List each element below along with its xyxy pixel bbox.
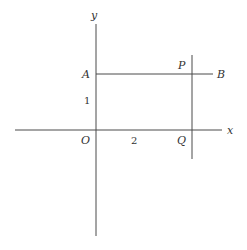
point-p-label: P <box>177 59 186 72</box>
y-axis-label: y <box>90 9 98 22</box>
point-a-label: A <box>81 68 90 81</box>
x-tick-label-2: 2 <box>131 135 137 146</box>
point-q-label: Q <box>177 134 186 147</box>
point-b-label: B <box>216 68 225 81</box>
origin-label: O <box>81 134 90 147</box>
x-axis-label: x <box>227 124 234 137</box>
y-tick-label-1: 1 <box>84 95 90 106</box>
coordinate-diagram: y x O A B P Q 1 2 <box>0 0 247 250</box>
